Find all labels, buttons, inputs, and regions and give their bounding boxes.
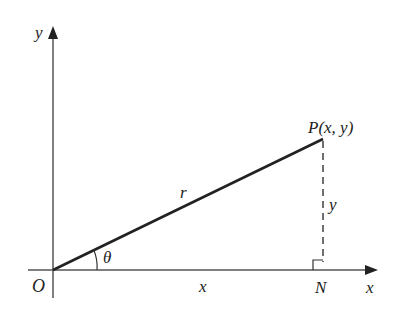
origin-label: O [32,276,45,296]
y-axis-label: y [33,23,43,42]
polar-diagram: y x O P(x, y) r θ x y N [0,0,403,322]
horizontal-leg-label: x [198,277,207,296]
vertical-leg-label: y [327,195,337,214]
angle-arc [94,250,98,270]
angle-label: θ [103,248,111,267]
point-label: P(x, y) [307,118,354,137]
radius-label: r [180,183,187,202]
foot-label: N [314,278,328,297]
x-axis-label: x [365,278,374,297]
x-axis-arrow-icon [365,265,378,275]
y-axis-arrow-icon [48,26,58,39]
right-angle-marker [313,260,323,270]
